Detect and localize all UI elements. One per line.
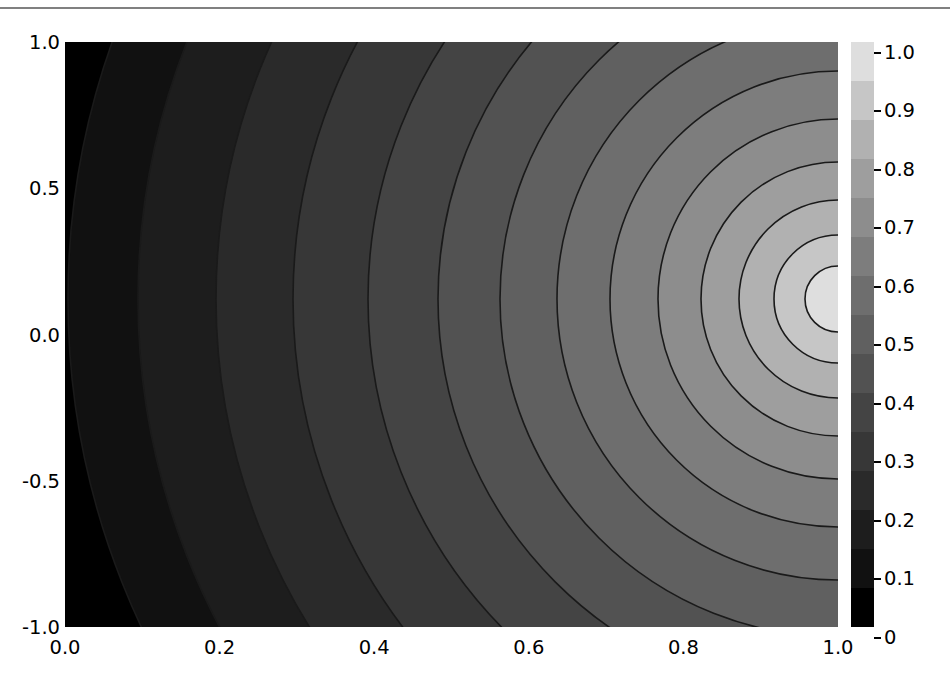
- colorbar-tick-mark: [874, 578, 881, 580]
- x-tick-label: 0.2: [180, 636, 260, 659]
- colorbar-tick-label: 0.3: [884, 452, 915, 472]
- top-divider-rule: [0, 7, 950, 9]
- colorbar-tick-mark: [874, 110, 881, 112]
- colorbar-tick-mark: [874, 286, 881, 288]
- x-tick-label: 0.6: [489, 636, 569, 659]
- y-tick-label: -0.5: [2, 469, 60, 492]
- colorbar-ticks: 1.0 0.9 0.8 0.7 0.6 0.5 0.4 0.3 0.2 0.1: [874, 42, 950, 627]
- colorbar-tick-label: 0.4: [884, 394, 915, 414]
- colorbar-tick-label: 0.8: [884, 160, 915, 180]
- contour-plot-axes[interactable]: [65, 42, 838, 627]
- colorbar-tick-mark: [874, 637, 881, 639]
- colorbar-tick-mark: [874, 52, 881, 54]
- colorbar-tick-mark: [874, 403, 881, 405]
- colorbar-tick-label: 0.6: [884, 277, 915, 297]
- x-tick-label: 0.4: [334, 636, 414, 659]
- colorbar-tick-label: 1.0: [884, 43, 915, 63]
- figure-canvas: 1.0 0.5 0.0 -0.5 -1.0: [0, 0, 950, 683]
- colorbar-tick-label: 0: [884, 628, 896, 648]
- y-tick-label: 1.0: [2, 31, 60, 54]
- colorbar-tick-label: 0.2: [884, 511, 915, 531]
- colorbar-tick-mark: [874, 461, 881, 463]
- colorbar-tick-label: 0.7: [884, 218, 915, 238]
- colorbar-bands: [851, 42, 874, 627]
- x-tick-label: 1.0: [798, 636, 878, 659]
- colorbar[interactable]: [851, 42, 874, 627]
- colorbar-gradient: [851, 42, 874, 627]
- y-tick-label: 0.5: [2, 177, 60, 200]
- colorbar-tick-mark: [874, 520, 881, 522]
- colorbar-tick-label: 0.5: [884, 335, 915, 355]
- band-circles: [68, 42, 838, 627]
- colorbar-tick-mark: [874, 344, 881, 346]
- y-axis-ticks: 1.0 0.5 0.0 -0.5 -1.0: [0, 42, 60, 627]
- colorbar-tick-mark: [874, 227, 881, 229]
- y-tick-label: 0.0: [2, 323, 60, 346]
- x-tick-label: 0.8: [643, 636, 723, 659]
- colorbar-tick-label: 0.1: [884, 569, 915, 589]
- x-tick-label: 0.0: [25, 636, 105, 659]
- colorbar-tick-mark: [874, 169, 881, 171]
- contour-field: [65, 42, 838, 627]
- x-axis-ticks: 0.0 0.2 0.4 0.6 0.8 1.0: [65, 636, 838, 666]
- colorbar-tick-label: 0.9: [884, 101, 915, 121]
- contour-bands: [65, 42, 838, 627]
